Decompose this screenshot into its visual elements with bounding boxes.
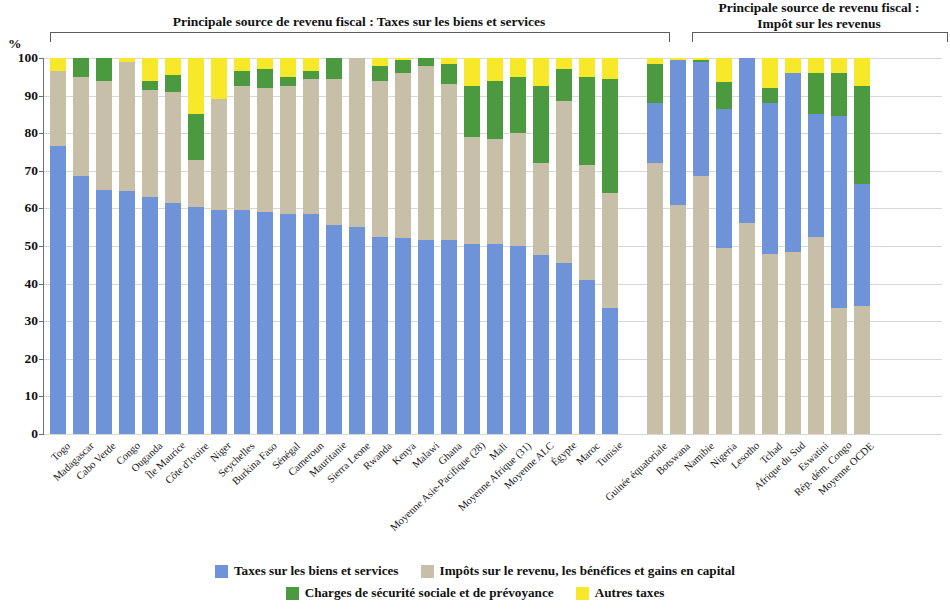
- legend-item[interactable]: Autres taxes: [576, 582, 665, 604]
- bar-segment: [418, 66, 434, 241]
- bar-segment: [602, 58, 618, 79]
- section-bracket-right: [692, 32, 948, 42]
- y-axis-tick: [39, 359, 44, 360]
- bar-segment: [831, 116, 847, 308]
- bar-moyenne-asie-pacifique-28[interactable]: [464, 58, 480, 434]
- bar-congo[interactable]: [119, 58, 135, 434]
- legend: Taxes sur les biens et servicesImpôts su…: [0, 560, 950, 604]
- plot-area: [44, 58, 942, 434]
- bar-segment: [441, 240, 457, 434]
- bar-segment: [556, 58, 572, 69]
- bar-segment: [395, 238, 411, 434]
- bar-segment: [303, 79, 319, 214]
- y-axis-tick-label: 20: [0, 351, 38, 367]
- bar-togo[interactable]: [50, 58, 66, 434]
- bar-segment: [372, 58, 388, 66]
- bar-segment: [211, 99, 227, 210]
- bar-segment: [96, 81, 112, 190]
- bar-segment: [808, 58, 824, 73]
- bar-c-te-d-ivoire[interactable]: [188, 58, 204, 434]
- bar-tunisie[interactable]: [602, 58, 618, 434]
- bar-r-p-d-m-congo[interactable]: [831, 58, 847, 434]
- bar-segment: [556, 263, 572, 434]
- bar-segment: [188, 160, 204, 207]
- bar-segment: [326, 225, 342, 434]
- bar-s-n-gal[interactable]: [280, 58, 296, 434]
- bar-segment: [395, 73, 411, 238]
- bar-segment: [785, 58, 801, 73]
- bar-segment: [670, 58, 686, 60]
- bar-namibie[interactable]: [693, 58, 709, 434]
- bar-segment: [441, 64, 457, 85]
- bar-segment: [854, 306, 870, 434]
- bar-segment: [165, 75, 181, 92]
- legend-item[interactable]: Charges de sécurité sociale et de prévoy…: [286, 582, 554, 604]
- bar-segment: [441, 58, 457, 64]
- bar-segment: [257, 88, 273, 212]
- bar-seychelles[interactable]: [234, 58, 250, 434]
- bar-segment: [808, 237, 824, 434]
- section-header-left: Principale source de revenu fiscal : Tax…: [48, 14, 670, 30]
- bar-afrique-du-sud[interactable]: [785, 58, 801, 434]
- bar-segment: [280, 86, 296, 214]
- bar-segment: [303, 58, 319, 71]
- bar-segment: [785, 252, 801, 434]
- bar-segment: [119, 62, 135, 192]
- bar-maroc[interactable]: [579, 58, 595, 434]
- bar-nigeria[interactable]: [716, 58, 732, 434]
- bar-moyenne-ocde[interactable]: [854, 58, 870, 434]
- bar-mauritanie[interactable]: [326, 58, 342, 434]
- legend-label: Autres taxes: [595, 582, 665, 604]
- bar-moyenne-afrique-31[interactable]: [510, 58, 526, 434]
- bar-segment: [349, 58, 365, 227]
- bar-burkina-faso[interactable]: [257, 58, 273, 434]
- y-axis-tick-label: 10: [0, 388, 38, 404]
- bar-gypte[interactable]: [556, 58, 572, 434]
- bar-kenya[interactable]: [395, 58, 411, 434]
- bar-le-maurice[interactable]: [165, 58, 181, 434]
- y-axis-tick-label: 50: [0, 238, 38, 254]
- bar-segment: [693, 62, 709, 177]
- y-axis-tick: [39, 133, 44, 134]
- bar-botswana[interactable]: [670, 58, 686, 434]
- bar-segment: [119, 191, 135, 434]
- bar-segment: [831, 308, 847, 434]
- bar-moyenne-alc[interactable]: [533, 58, 549, 434]
- legend-item[interactable]: Impôts sur le revenu, les bénéfices et g…: [421, 560, 735, 582]
- bar-niger[interactable]: [211, 58, 227, 434]
- bar-cameroun[interactable]: [303, 58, 319, 434]
- bar-madagascar[interactable]: [73, 58, 89, 434]
- bar-mali[interactable]: [487, 58, 503, 434]
- bar-ghana[interactable]: [441, 58, 457, 434]
- bar-segment: [73, 176, 89, 434]
- bar-tchad[interactable]: [762, 58, 778, 434]
- bar-segment: [418, 58, 434, 66]
- bar-segment: [693, 60, 709, 62]
- legend-swatch: [215, 565, 228, 578]
- bar-ouganda[interactable]: [142, 58, 158, 434]
- y-axis-tick: [39, 58, 44, 59]
- bar-segment: [762, 103, 778, 253]
- bar-cabo-verde[interactable]: [96, 58, 112, 434]
- legend-item[interactable]: Taxes sur les biens et services: [215, 560, 398, 582]
- x-axis-label: Égypte: [549, 440, 578, 469]
- bar-segment: [211, 58, 227, 99]
- bar-eswatini[interactable]: [808, 58, 824, 434]
- bar-segment: [579, 77, 595, 165]
- bar-malawi[interactable]: [418, 58, 434, 434]
- bar-segment: [280, 77, 296, 86]
- bar-rwanda[interactable]: [372, 58, 388, 434]
- bar-segment: [647, 163, 663, 434]
- bar-guin-e-quatoriale[interactable]: [647, 58, 663, 434]
- bar-sierra-leone[interactable]: [349, 58, 365, 434]
- bar-segment: [50, 58, 66, 71]
- chart-container: Principale source de revenu fiscal : Tax…: [0, 0, 950, 611]
- y-axis-tick: [39, 434, 44, 435]
- y-axis-tick-label: 30: [0, 313, 38, 329]
- bar-segment: [579, 58, 595, 77]
- bar-lesotho[interactable]: [739, 58, 755, 434]
- bar-segment: [487, 58, 503, 81]
- bar-segment: [670, 205, 686, 434]
- bar-segment: [119, 58, 135, 62]
- bar-segment: [165, 92, 181, 203]
